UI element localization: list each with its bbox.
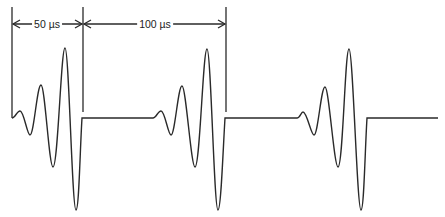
waveform-diagram	[0, 0, 445, 217]
label-100us: 100 µs	[137, 18, 173, 30]
label-50us: 50 µs	[32, 18, 62, 30]
waveform-trace	[12, 48, 438, 210]
